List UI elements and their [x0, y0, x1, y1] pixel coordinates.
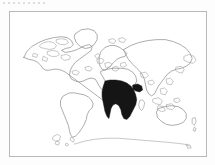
region-europe: [95, 38, 127, 72]
top-scan-artifact: [3, 2, 47, 4]
world-map-canvas: [10, 12, 206, 156]
region-new-zealand: [192, 118, 196, 132]
world-map-figure: [9, 11, 207, 157]
region-australia: [157, 106, 187, 126]
region-africa-highlighted: [101, 68, 143, 119]
region-madagascar: [139, 100, 145, 111]
region-south-america: [60, 93, 93, 142]
